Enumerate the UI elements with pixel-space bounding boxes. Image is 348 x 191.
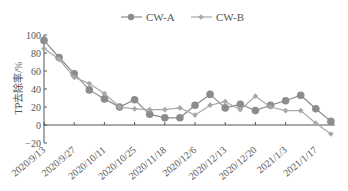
data-point [162,107,168,113]
y-tick-label: 0 [36,120,41,131]
legend: CW-A CW-B [121,11,244,23]
data-point [161,114,169,122]
y-tick-label: 60 [31,66,41,77]
y-axis-label: TP去除率/% [12,62,24,115]
data-point [176,114,184,122]
data-point [283,108,289,114]
y-tick-label: 80 [31,48,41,59]
data-point [132,106,138,112]
y-tick-label: 40 [31,84,41,95]
data-point [252,107,260,115]
data-point [40,37,48,45]
data-point [312,105,320,113]
data-point [86,86,94,94]
y-tick-label: 100 [26,30,41,41]
data-point [177,105,183,111]
data-point [131,96,139,104]
legend-label-cw-a: CW-A [146,11,175,23]
axes: −200204060801002020/9/132020/9/272020/10… [9,30,335,182]
line-chart: CW-A CW-B TP去除率/% −200204060801002020/9/… [0,0,348,191]
data-point [206,91,214,99]
data-point [297,92,305,100]
data-point [191,101,199,109]
x-tick-label: 2021/1/17 [281,144,319,178]
data-point [282,97,290,105]
series-line-cw-a [44,40,331,121]
legend-label-cw-b: CW-B [216,11,244,23]
series [40,37,335,137]
y-tick-label: 20 [31,102,41,113]
data-point [221,104,229,112]
legend-circle-marker-icon [128,14,134,20]
data-point [327,118,335,126]
data-point [222,99,228,105]
legend-diamond-marker-icon [198,14,204,20]
